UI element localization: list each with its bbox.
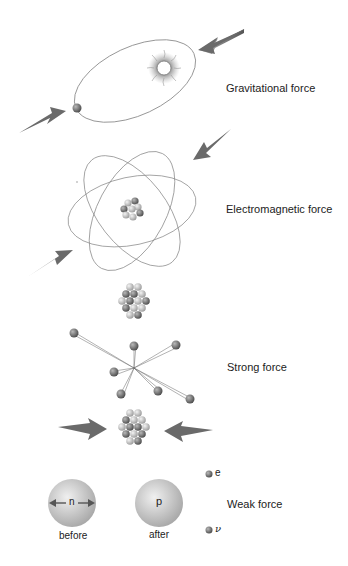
strong-section [58, 283, 213, 445]
nucleon-icon [117, 390, 126, 399]
after-label: after [149, 529, 169, 540]
label-strong: Strong force [227, 361, 287, 373]
arrow-icon [29, 250, 73, 276]
arrow-icon [193, 129, 231, 160]
nucleon-icon [172, 341, 181, 350]
planet-icon [73, 104, 82, 113]
nucleon-icon [70, 329, 79, 338]
label-gravitational: Gravitational force [226, 82, 315, 94]
arrow-icon [198, 29, 245, 54]
neutrino-icon [206, 527, 213, 534]
arrow-icon [19, 107, 66, 133]
electron-symbol: e [215, 467, 221, 478]
nucleus-cluster-icon [118, 409, 150, 445]
label-electromagnetic: Electromagnetic force [226, 203, 332, 215]
nucleus-cluster-icon [118, 283, 150, 319]
proton-symbol: p [156, 495, 162, 507]
nucleon-icon [110, 368, 119, 377]
nucleon-icon [154, 387, 163, 396]
electron-icon [206, 471, 213, 478]
gravitational-section [19, 23, 245, 140]
arrow-icon [58, 418, 107, 440]
before-label: before [59, 530, 87, 541]
sun-icon [147, 50, 181, 86]
neutrino-symbol: ν [215, 523, 221, 534]
electromagnetic-section [29, 129, 231, 284]
nucleon-icon [186, 395, 195, 404]
orbit-ellipse [62, 23, 209, 140]
label-weak: Weak force [227, 498, 282, 510]
neutron-symbol: n [69, 496, 75, 507]
atom-nucleus-icon [120, 197, 143, 220]
nucleon-icon [130, 342, 139, 351]
arrow-icon [164, 421, 213, 442]
